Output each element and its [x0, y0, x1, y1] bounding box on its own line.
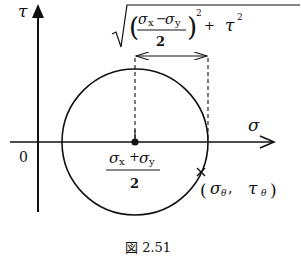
radius-formula: ( σ x − σ y 2 ) 2 + τ 2	[112, 5, 300, 49]
svg-text:2: 2	[130, 176, 139, 191]
svg-text:2: 2	[196, 8, 202, 18]
svg-text:τ: τ	[248, 178, 258, 198]
svg-text:(: (	[200, 180, 207, 200]
tau-axis	[32, 4, 44, 212]
svg-text:): )	[270, 180, 277, 200]
tau-axis-label: τ	[18, 1, 28, 21]
svg-text:σ: σ	[138, 11, 148, 27]
tau-axis-arrowhead-icon	[32, 4, 44, 18]
svg-text:σ: σ	[165, 11, 175, 27]
svg-text:y: y	[174, 17, 181, 28]
svg-text:θ: θ	[221, 188, 227, 198]
center-formula: σ x + σ y 2	[106, 149, 160, 191]
figure-caption: 図 2.51	[125, 240, 171, 255]
sigma-axis	[10, 136, 274, 148]
mohr-circle-diagram: τ σ 0 ( σ x − σ y 2 ) 2 + τ 2 σ x + σ y	[0, 0, 301, 256]
svg-text:2: 2	[156, 34, 165, 49]
stress-point-label: ( σ θ , τ θ )	[200, 178, 277, 200]
svg-text:θ: θ	[261, 188, 267, 198]
svg-text:τ: τ	[225, 15, 235, 35]
svg-text:x: x	[148, 17, 154, 28]
origin-label: 0	[19, 149, 28, 165]
svg-text:,: ,	[228, 180, 232, 196]
svg-text:2: 2	[237, 12, 243, 22]
svg-text:y: y	[148, 156, 155, 167]
sigma-axis-label: σ	[248, 115, 260, 135]
svg-text:+: +	[204, 18, 215, 33]
svg-text:x: x	[119, 156, 125, 167]
